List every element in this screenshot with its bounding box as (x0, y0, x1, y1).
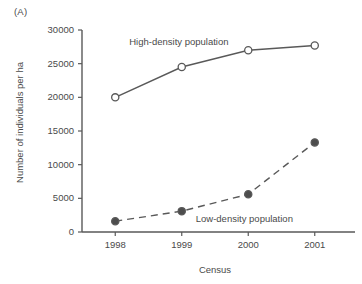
data-point-low-density-2001 (311, 139, 318, 146)
data-point-low-density-1999 (178, 208, 185, 215)
data-point-high-density-2001 (311, 42, 318, 49)
data-point-low-density-2000 (245, 191, 252, 198)
plot-area (0, 0, 362, 284)
data-point-high-density-2000 (245, 47, 252, 54)
data-point-high-density-1999 (178, 63, 185, 70)
series-line-low-density (115, 142, 315, 221)
series-line-high-density (115, 45, 315, 97)
figure-panel-a: (A) Number of individuals per ha Census … (0, 0, 362, 284)
data-point-high-density-1998 (112, 94, 119, 101)
data-point-low-density-1998 (112, 218, 119, 225)
